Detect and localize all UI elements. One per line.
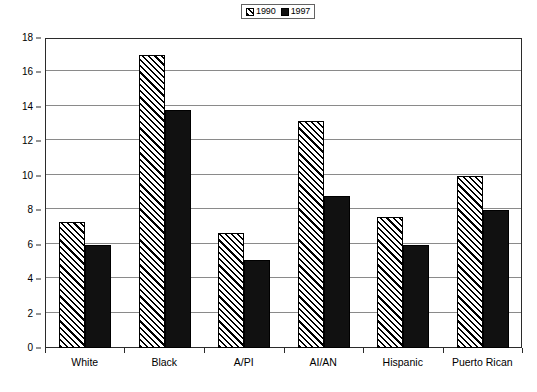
legend-item-1990: 1990 xyxy=(246,7,276,16)
bar-chart: 1990 1997 024681012141618 WhiteBlackA/PI… xyxy=(0,0,537,392)
chart-legend: 1990 1997 xyxy=(241,4,315,19)
hatched-swatch-icon xyxy=(246,8,254,16)
y-tick-mark xyxy=(36,106,41,107)
bar-black-1990 xyxy=(139,55,165,348)
bar-puerto-rican-1990 xyxy=(457,176,483,348)
x-axis-labels: WhiteBlackA/PIAI/ANHispanicPuerto Rican xyxy=(45,356,522,368)
y-tick-label: 2 xyxy=(27,309,33,319)
y-tick-mark xyxy=(36,210,41,211)
legend-item-1997: 1997 xyxy=(281,7,311,16)
x-axis-label: Black xyxy=(125,356,205,368)
bar-puerto-rican-1997 xyxy=(483,210,509,348)
bar-group xyxy=(125,38,205,348)
y-tick-mark xyxy=(36,348,41,349)
bar-a-pi-1990 xyxy=(218,233,244,348)
bar-ai-an-1997 xyxy=(324,196,350,348)
x-axis-ticks xyxy=(45,348,522,353)
bar-hispanic-1990 xyxy=(377,217,403,348)
bar-white-1997 xyxy=(85,245,111,348)
x-tick-mark xyxy=(124,348,125,353)
y-tick-label: 14 xyxy=(22,102,33,112)
y-tick-label: 4 xyxy=(27,274,33,284)
x-axis-label: Puerto Rican xyxy=(443,356,523,368)
legend-label-1997: 1997 xyxy=(291,7,311,16)
y-tick-mark xyxy=(36,279,41,280)
x-tick-mark xyxy=(45,348,46,353)
x-tick-mark xyxy=(443,348,444,353)
bar-black-1997 xyxy=(165,110,191,348)
y-tick-label: 12 xyxy=(22,136,33,146)
y-tick-label: 0 xyxy=(27,343,33,353)
y-axis: 024681012141618 xyxy=(0,38,41,348)
bar-hispanic-1997 xyxy=(403,245,429,348)
y-tick-mark xyxy=(36,244,41,245)
y-tick-mark xyxy=(36,313,41,314)
y-tick-mark xyxy=(36,141,41,142)
y-tick-label: 6 xyxy=(27,240,33,250)
x-axis-label: AI/AN xyxy=(284,356,364,368)
legend-label-1990: 1990 xyxy=(256,7,276,16)
bar-group xyxy=(45,38,125,348)
y-tick-mark xyxy=(36,175,41,176)
x-tick-mark xyxy=(284,348,285,353)
bar-group xyxy=(204,38,284,348)
x-tick-mark xyxy=(522,348,523,353)
y-tick-mark xyxy=(36,38,41,39)
y-tick-label: 18 xyxy=(22,33,33,43)
x-axis-label: White xyxy=(45,356,125,368)
y-tick-mark xyxy=(36,72,41,73)
bar-ai-an-1990 xyxy=(298,121,324,348)
bar-group xyxy=(443,38,523,348)
x-axis-label: Hispanic xyxy=(363,356,443,368)
bar-groups xyxy=(45,38,522,348)
x-axis-label: A/PI xyxy=(204,356,284,368)
bar-a-pi-1997 xyxy=(244,260,270,348)
x-tick-mark xyxy=(363,348,364,353)
y-tick-label: 10 xyxy=(22,171,33,181)
bar-group xyxy=(284,38,364,348)
solid-swatch-icon xyxy=(281,8,289,16)
bar-white-1990 xyxy=(59,222,85,348)
y-tick-label: 16 xyxy=(22,67,33,77)
y-tick-label: 8 xyxy=(27,205,33,215)
x-tick-mark xyxy=(204,348,205,353)
bar-group xyxy=(363,38,443,348)
